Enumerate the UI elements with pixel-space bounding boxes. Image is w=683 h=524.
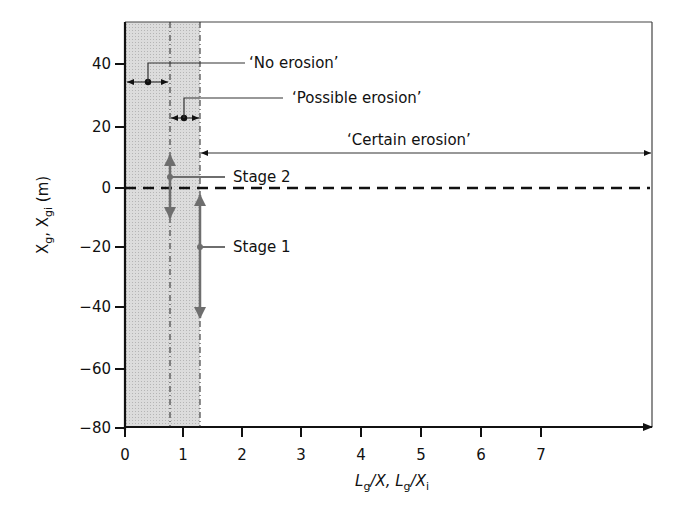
- svg-text:20: 20: [92, 118, 111, 136]
- stage-1-label: Stage 1: [233, 238, 291, 256]
- stage-2-label: Stage 2: [233, 168, 291, 186]
- svg-text:5: 5: [416, 446, 426, 464]
- certain-erosion-callout: ‘Certain erosion’: [201, 131, 651, 153]
- svg-text:−40: −40: [79, 298, 111, 316]
- svg-text:−20: −20: [79, 238, 111, 256]
- svg-text:0: 0: [101, 179, 111, 197]
- possible-erosion-callout: ‘Possible erosion’: [171, 89, 422, 121]
- x-ticks: [125, 427, 541, 437]
- possible-erosion-label: ‘Possible erosion’: [292, 89, 422, 107]
- x-axis-label: Lg/X, Lg/Xi: [355, 472, 429, 493]
- erosion-diagram: 40 20 0 −20 −40 −60 −80 0 1 2 3 4 5 6 7 …: [0, 0, 683, 524]
- svg-text:40: 40: [92, 55, 111, 73]
- svg-text:2: 2: [237, 446, 247, 464]
- certain-erosion-label: ‘Certain erosion’: [347, 131, 471, 149]
- svg-text:7: 7: [536, 446, 546, 464]
- shaded-zone: [125, 22, 200, 427]
- svg-text:0: 0: [120, 446, 130, 464]
- svg-text:−80: −80: [79, 419, 111, 437]
- x-tick-labels: 0 1 2 3 4 5 6 7: [120, 446, 546, 464]
- svg-text:3: 3: [296, 446, 306, 464]
- svg-text:1: 1: [178, 446, 188, 464]
- svg-text:6: 6: [476, 446, 486, 464]
- svg-text:4: 4: [356, 446, 366, 464]
- svg-text:−60: −60: [79, 360, 111, 378]
- y-axis-label: Xg, Xgi (m): [34, 176, 55, 254]
- y-tick-labels: 40 20 0 −20 −40 −60 −80: [79, 55, 111, 437]
- stage-1-marker: Stage 1: [197, 195, 291, 318]
- y-ticks: [115, 64, 125, 428]
- no-erosion-label: ‘No erosion’: [249, 54, 339, 72]
